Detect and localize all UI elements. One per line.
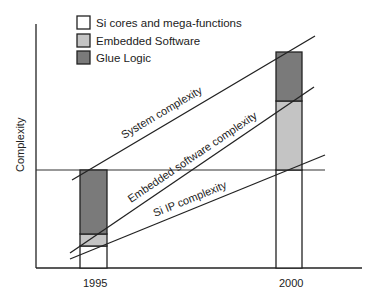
legend-swatch-si-cores [77, 16, 90, 29]
legend-label-embedded-software: Embedded Software [96, 35, 200, 47]
legend-swatch-glue-logic [77, 51, 90, 64]
legend-swatch-embedded-software [77, 34, 90, 47]
bar-2000 [276, 52, 302, 268]
system-complexity-label: System complexity [119, 83, 204, 140]
bar-2000-si-cores [276, 170, 302, 268]
legend-label-glue-logic: Glue Logic [96, 52, 151, 64]
bar-2000-embedded-software [276, 101, 302, 170]
x-tick-1995: 1995 [83, 277, 107, 289]
complexity-chart: System complexity Embedded software comp… [0, 0, 382, 300]
bar-1995-glue-logic [80, 170, 107, 234]
legend: Si cores and mega-functions Embedded Sof… [77, 16, 242, 64]
y-axis-label: Complexity [14, 117, 26, 172]
bar-2000-glue-logic [276, 52, 302, 101]
legend-label-si-cores: Si cores and mega-functions [96, 17, 242, 29]
x-tick-2000: 2000 [279, 277, 303, 289]
